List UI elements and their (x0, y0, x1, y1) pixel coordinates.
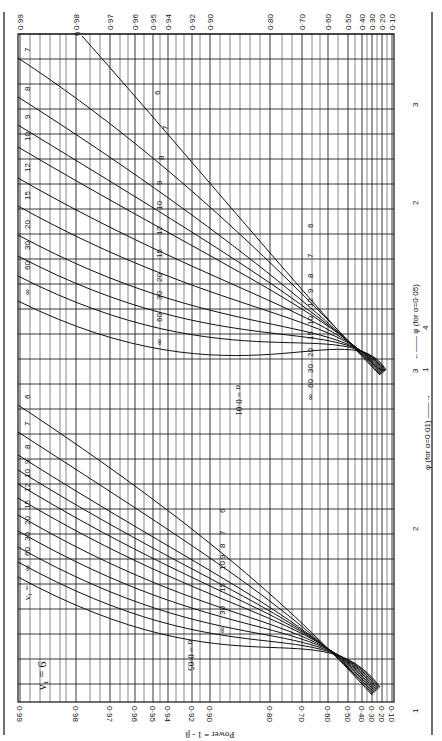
phi-axis-label-005: ←—— φ (for α=0·05) (411, 284, 420, 360)
nu2-label: 15 (23, 191, 32, 200)
power-tick-bottom: 0·10 (387, 706, 396, 723)
curve-label: 7 (218, 530, 227, 535)
curve-alpha005 (18, 547, 378, 689)
curve-label: ∞ (155, 339, 164, 345)
nu1-inline: ν₁ = (22, 585, 32, 600)
curve-label: 20 (155, 273, 164, 282)
curve-label: 15 (218, 583, 227, 592)
power-tick-bottom: 0·94 (163, 706, 172, 723)
nu2-label: 60 (23, 547, 32, 556)
nu2-label: 20 (23, 220, 32, 229)
curve-label: 15 (155, 249, 164, 258)
nu2-label: 8 (23, 86, 32, 91)
phi-tick: 2 (411, 526, 420, 531)
power-tick-bottom: 0·98 (71, 706, 80, 723)
curve-label: 12 (155, 226, 164, 235)
nu2-label: 6 (73, 31, 82, 36)
nu2-label: 10 (23, 469, 32, 478)
curve-label: 12 (306, 298, 315, 307)
power-tick-top: 0·92 (188, 13, 197, 30)
curve-label: 60 (155, 313, 164, 322)
phi-tick: 1 (421, 367, 430, 372)
curve-label: 9 (155, 180, 164, 185)
nu2-label: 6 (23, 394, 32, 399)
curve-alpha001 (18, 206, 384, 372)
phi-tick: 1 (411, 708, 420, 713)
power-tick-bottom: 0·92 (187, 706, 196, 723)
power-tick-bottom: 0·90 (205, 706, 214, 723)
power-tick-top: 0·98 (72, 13, 81, 30)
phi-tick: 3 (411, 368, 420, 373)
curve-alpha001 (18, 276, 385, 371)
curve-label: 20 (306, 348, 315, 357)
power-chart: 0·990·990·980·980·970·970·960·960·950·95… (0, 0, 442, 741)
phi-tick: 3 (411, 102, 420, 107)
curve-label: 7 (161, 125, 170, 130)
power-tick-top: 0·90 (206, 13, 215, 30)
power-tick-bottom: 0·60 (323, 706, 332, 723)
nu2-label: 10 (23, 132, 32, 141)
curve-label: 6 (306, 223, 315, 228)
curve-label: 30 (306, 364, 315, 373)
power-tick-top: 0·10 (388, 13, 397, 30)
power-tick-bottom: 0·50 (343, 706, 352, 723)
power-tick-top: 0·94 (164, 13, 173, 30)
nu2-label: 20 (23, 516, 32, 525)
curve-alpha001 (18, 235, 384, 372)
curve-label: 10 (306, 316, 315, 325)
power-tick-bottom: 0·30 (367, 706, 376, 723)
power-tick-bottom: 0·40 (357, 706, 366, 723)
curve-label: 7 (306, 253, 315, 258)
nu2-label: 15 (23, 500, 32, 509)
curve-alpha001 (18, 301, 386, 370)
nu2-label: 60 (23, 261, 32, 270)
nu2-label: ∞ (23, 565, 32, 571)
power-tick-top: 0·95 (149, 13, 158, 30)
curve-label: ∞ (306, 394, 315, 400)
curve-label: 15 (306, 331, 315, 340)
curve-alpha005 (18, 515, 377, 690)
curve-label: 60 (306, 379, 315, 388)
power-tick-top: 0·97 (106, 13, 115, 30)
curve-alpha005 (18, 577, 380, 687)
curve-alpha005 (18, 498, 376, 691)
nu1-label: ν₁ = 6 (35, 662, 49, 690)
power-tick-bottom: 0·97 (105, 706, 114, 723)
power-tick-top: 0·50 (344, 13, 353, 30)
curve-label: 8 (218, 543, 227, 548)
curve-label: 9 (306, 288, 315, 293)
curve-alpha001 (82, 36, 380, 375)
power-tick-top: 0·40 (358, 13, 367, 30)
curve-label: 10 (155, 201, 164, 210)
nu2-label: 7 (23, 47, 32, 52)
nu2-label: ∞ (23, 289, 32, 295)
nu2-label: 30 (23, 241, 32, 250)
phi-tick: 4 (421, 325, 430, 330)
curve-label: 6 (153, 90, 162, 95)
curve-label: 8 (306, 273, 315, 278)
power-tick-top: 0·99 (16, 13, 25, 30)
power-tick-bottom: 0·99 (15, 706, 24, 723)
nu2-label: 9 (23, 459, 32, 464)
curve-label: 30 (218, 606, 227, 615)
power-tick-top: 0·70 (298, 13, 307, 30)
nu2-label: 30 (23, 532, 32, 541)
curve-alpha005 (18, 531, 378, 689)
curve-label: ∞ (218, 627, 227, 633)
curve-label: 8 (157, 155, 166, 160)
phi-tick: 2 (411, 200, 420, 205)
curve-alpha001 (18, 58, 381, 375)
curve-label: 6 (218, 508, 227, 513)
curve-label: 10 9 (218, 554, 227, 570)
power-tick-bottom: 0·70 (297, 706, 306, 723)
nu2-label: 8 (23, 444, 32, 449)
nu2-label: 12 (23, 483, 32, 492)
nu2-label: 9 (23, 114, 32, 119)
nu2-label: 7 (23, 421, 32, 426)
power-axis-label: Power = 1 - β (185, 730, 235, 740)
alpha005-label: α = 0·05 (186, 640, 196, 671)
power-tick-top: 0·60 (324, 13, 333, 30)
alpha001-label: α = 0·01 (234, 385, 244, 416)
curve-label: 30 (155, 291, 164, 300)
power-tick-top: 0·80 (266, 13, 275, 30)
